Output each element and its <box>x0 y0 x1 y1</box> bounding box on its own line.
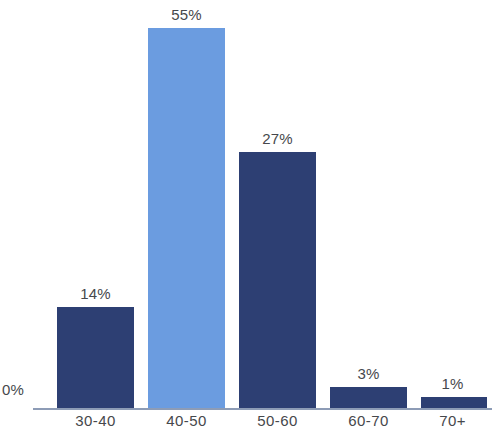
bar-70-plus[interactable] <box>421 397 487 408</box>
bar-50-60[interactable] <box>239 152 316 408</box>
plot-area: 0% 14% 55% 27% 3% 1% 30-40 40-50 50-60 6… <box>0 0 497 427</box>
value-label-70-plus: 1% <box>414 375 491 392</box>
x-axis-line <box>33 408 492 410</box>
bar-60-70[interactable] <box>330 387 407 408</box>
category-label-40-50: 40-50 <box>148 412 225 427</box>
y-axis-origin-label: 0% <box>2 381 32 398</box>
bar-30-40[interactable] <box>57 307 134 408</box>
category-label-70-plus: 70+ <box>414 412 491 427</box>
category-label-60-70: 60-70 <box>330 412 407 427</box>
bar-40-50[interactable] <box>148 28 225 408</box>
value-label-40-50: 55% <box>148 6 225 23</box>
bar-chart: 0% 14% 55% 27% 3% 1% 30-40 40-50 50-60 6… <box>0 0 497 427</box>
category-label-30-40: 30-40 <box>57 412 134 427</box>
value-label-50-60: 27% <box>239 130 316 147</box>
value-label-30-40: 14% <box>57 285 134 302</box>
value-label-60-70: 3% <box>330 365 407 382</box>
category-label-50-60: 50-60 <box>239 412 316 427</box>
